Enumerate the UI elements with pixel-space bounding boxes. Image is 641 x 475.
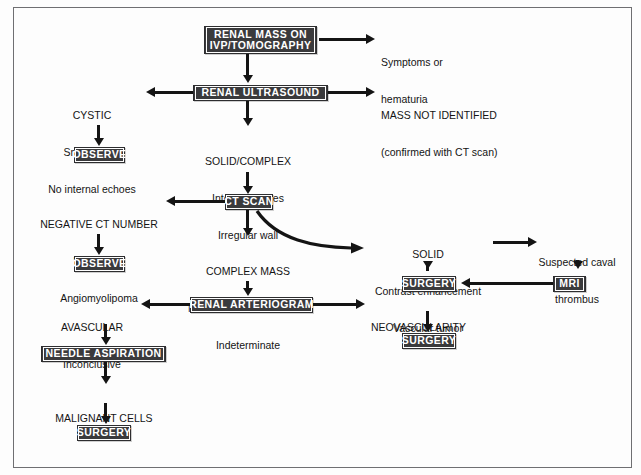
- edge-arteriogram-to-neovascularity-line: [313, 303, 356, 306]
- node-renal-arteriogram[interactable]: RENAL ARTERIOGRAM: [190, 297, 313, 313]
- edge-malignant-to-surgery-line: [104, 403, 107, 416]
- edge-arteriogram-to-avascular-line: [150, 303, 190, 306]
- node-surgery-neovascularity[interactable]: SURGERY: [402, 333, 456, 349]
- edge-malignant-to-surgery-arrow: [101, 416, 111, 424]
- diagram-canvas: RENAL MASS ON IVP/TOMOGRAPHY Symptoms or…: [0, 0, 641, 475]
- edge-mri-to-surgery-arrow: [461, 278, 470, 288]
- edge-solid-to-caval-arrow: [528, 237, 537, 247]
- edge-needle-to-malignant-arrow: [101, 376, 111, 384]
- edge-needle-to-malignant-line: [104, 362, 107, 376]
- node-mri[interactable]: MRI: [553, 276, 586, 292]
- node-surgery-malignant-cells[interactable]: SURGERY: [77, 425, 131, 441]
- edge-neovascularity-to-surgery-arrow: [423, 324, 433, 332]
- edge-mri-to-surgery-line: [470, 282, 553, 285]
- solid-head: SOLID: [366, 248, 490, 260]
- edge-solid-to-caval-line: [493, 241, 528, 244]
- edge-arteriogram-to-avascular-arrow: [141, 299, 150, 309]
- edge-arteriogram-to-neovascularity-arrow: [356, 299, 365, 309]
- surgery-neovascularity-label: SURGERY: [402, 335, 456, 346]
- edge-caval-to-mri-arrow: [573, 261, 583, 269]
- avascular-head: AVASCULAR: [47, 321, 137, 333]
- edge-complex-mass-to-arteriogram-arrow: [243, 288, 253, 296]
- diagram-frame: RENAL MASS ON IVP/TOMOGRAPHY Symptoms or…: [13, 7, 632, 468]
- needle-aspiration-label: NEEDLE ASPIRATION: [46, 348, 162, 359]
- edge-solid-to-surgery-arrow: [423, 261, 433, 269]
- renal-arteriogram-label: RENAL ARTERIOGRAM: [189, 299, 314, 310]
- edge-avascular-to-needle-line: [104, 324, 107, 337]
- edge-complex-mass-to-arteriogram-line: [246, 281, 249, 288]
- caval-line2: thrombus: [537, 293, 617, 305]
- mri-label: MRI: [559, 278, 579, 289]
- surgery-malignant-cells-label: SURGERY: [77, 427, 131, 438]
- node-needle-aspiration[interactable]: NEEDLE ASPIRATION: [41, 346, 166, 362]
- edge-avascular-to-needle-arrow: [101, 337, 111, 345]
- surgery-solid-label: SURGERY: [402, 278, 456, 289]
- edge-neovascularity-to-surgery-line: [426, 311, 429, 324]
- node-surgery-solid[interactable]: SURGERY: [402, 276, 456, 292]
- neovascularity-label: NEOVASCULARITY: [371, 321, 466, 333]
